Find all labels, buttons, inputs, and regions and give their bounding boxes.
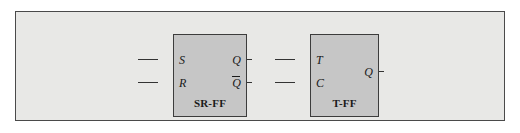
wire-sr-input-s xyxy=(138,59,158,60)
port-label-q: Q xyxy=(232,54,241,66)
wire-sr-input-r xyxy=(138,82,158,83)
diagram-panel: S R Q Q SR-FF T C Q T-FF xyxy=(15,11,505,121)
wire-t-input-t xyxy=(275,59,295,60)
port-label-t: T xyxy=(316,54,323,66)
q-bar-overline-text: Q xyxy=(232,76,241,89)
flip-flop-block-t-ff: T C Q T-FF xyxy=(310,34,379,117)
port-label-q-tff: Q xyxy=(364,66,373,78)
block-name-t-ff: T-FF xyxy=(311,97,378,109)
block-name-sr-ff: SR-FF xyxy=(174,97,246,109)
logic-diagram-figure: S R Q Q SR-FF T C Q T-FF xyxy=(0,0,520,133)
port-label-r: R xyxy=(179,77,186,89)
port-label-c: C xyxy=(316,77,324,89)
port-label-s: S xyxy=(179,54,185,66)
port-label-q-bar: Q xyxy=(232,76,241,89)
flip-flop-block-sr-ff: S R Q Q SR-FF xyxy=(173,34,247,117)
wire-t-input-c xyxy=(275,82,295,83)
